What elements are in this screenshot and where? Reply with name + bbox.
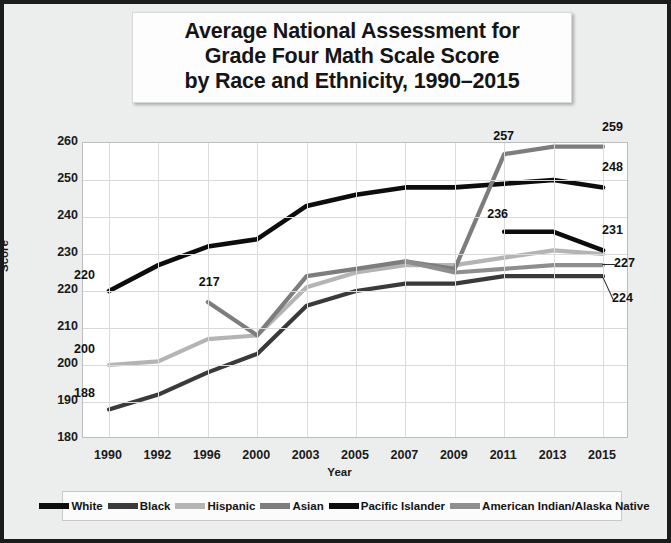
grid-line-vertical [504,143,505,437]
x-axis-tick-label: 2005 [327,448,383,462]
y-axis-tick-label: 250 [34,171,78,185]
legend-item-american-indian-alaska-native[interactable]: American Indian/Alaska Native [445,500,649,512]
legend-label: American Indian/Alaska Native [482,500,649,512]
legend-swatch [329,503,359,509]
grid-line-horizontal [83,217,627,218]
data-value-label: 236 [487,207,508,221]
title-line-3: by Race and Ethnicity, 1990–2015 [141,69,563,94]
annotation-leader-line [602,264,615,265]
chart-title: Average National Assessment for Grade Fo… [132,12,572,103]
grid-line-vertical [257,143,258,437]
data-value-label: 248 [602,160,623,174]
legend-item-black[interactable]: Black [103,500,171,512]
grid-line-vertical [307,143,308,437]
legend-label: Pacific Islander [361,500,445,512]
y-axis-tick-label: 200 [34,356,78,370]
grid-line-vertical [405,143,406,437]
legend-label: White [71,500,102,512]
grid-line-horizontal [83,328,627,329]
grid-line-horizontal [83,291,627,292]
grid-line-vertical [356,143,357,437]
data-value-label: 200 [74,342,95,356]
y-axis-ticks: 180190200210220230240250260 [26,4,78,543]
data-value-label: 259 [602,120,623,134]
grid-line-horizontal [83,402,627,403]
x-axis-tick-label: 2007 [376,448,432,462]
y-axis-tick-label: 220 [34,282,78,296]
grid-line-vertical [455,143,456,437]
title-line-2: Grade Four Math Scale Score [141,44,563,69]
grid-line-horizontal [83,254,627,255]
data-value-label: 257 [493,129,514,143]
y-axis-tick-label: 210 [34,319,78,333]
grid-line-vertical [158,143,159,437]
data-value-label: 227 [614,256,635,270]
legend-label: Hispanic [207,500,255,512]
x-axis-label: Year [4,466,671,478]
grid-line-vertical [208,143,209,437]
x-axis-tick-label: 1990 [80,448,136,462]
y-axis-tick-label: 180 [34,430,78,444]
x-axis-tick-label: 2013 [525,448,581,462]
x-axis-tick-label: 2003 [278,448,334,462]
y-axis-tick-label: 240 [34,208,78,222]
y-axis-tick-label: 230 [34,245,78,259]
data-value-label: 231 [602,223,623,237]
grid-line-vertical [554,143,555,437]
legend-label: Asian [292,500,323,512]
grid-line-horizontal [83,180,627,181]
y-axis-tick-label: 190 [34,393,78,407]
legend-item-asian[interactable]: Asian [255,500,323,512]
grid-line-horizontal [83,365,627,366]
legend-item-white[interactable]: White [34,500,102,512]
x-axis-tick-label: 2015 [574,448,630,462]
x-axis-tick-label: 2009 [426,448,482,462]
y-axis-label: Score [0,240,10,272]
title-line-1: Average National Assessment for [141,19,563,44]
data-value-label: 220 [74,268,95,282]
x-axis-tick-label: 1992 [129,448,185,462]
legend-label: Black [140,500,171,512]
legend-item-hispanic[interactable]: Hispanic [170,500,255,512]
x-axis-tick-label: 2000 [228,448,284,462]
grid-line-vertical [109,143,110,437]
legend-swatch [39,503,69,509]
legend-swatch [108,503,138,509]
x-axis-tick-label: 1996 [179,448,235,462]
grid-line-vertical [603,143,604,437]
chart-frame: Average National Assessment for Grade Fo… [0,0,671,543]
legend-swatch [175,503,205,509]
y-axis-tick-label: 260 [34,134,78,148]
data-value-label: 188 [74,386,95,400]
x-axis-tick-label: 2011 [475,448,531,462]
chart-legend: WhiteBlackHispanicAsianPacific IslanderA… [62,491,622,521]
legend-swatch [260,503,290,509]
legend-item-pacific-islander[interactable]: Pacific Islander [324,500,445,512]
data-value-label: 217 [199,275,220,289]
plot-area [82,142,628,438]
legend-swatch [450,503,480,509]
data-value-label: 224 [612,291,633,305]
